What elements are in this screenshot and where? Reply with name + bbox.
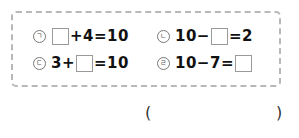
equation-c: ㄷ 3+ =10 bbox=[33, 52, 129, 74]
blank-box-c[interactable] bbox=[76, 55, 93, 72]
answer-close-paren: ) bbox=[276, 103, 282, 122]
answer-open-paren: ( bbox=[145, 103, 151, 122]
problem-box bbox=[11, 11, 281, 87]
blank-box-d[interactable] bbox=[235, 55, 252, 72]
marker-c: ㄷ bbox=[33, 57, 46, 70]
equation-a: ㄱ +4=10 bbox=[33, 25, 129, 47]
marker-a: ㄱ bbox=[33, 30, 46, 43]
blank-box-b[interactable] bbox=[211, 28, 228, 45]
blank-box-a[interactable] bbox=[52, 28, 69, 45]
marker-d: ㄹ bbox=[157, 57, 170, 70]
answer-field[interactable] bbox=[158, 104, 270, 124]
equation-d: ㄹ 10−7= bbox=[157, 52, 253, 74]
equation-b: ㄴ 10− =2 bbox=[157, 25, 253, 47]
marker-b: ㄴ bbox=[157, 30, 170, 43]
